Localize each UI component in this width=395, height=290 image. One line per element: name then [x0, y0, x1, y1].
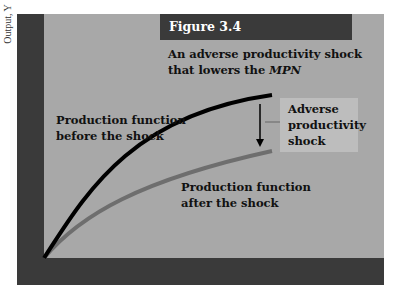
shock-line-1: Adverse [288, 101, 358, 117]
caption-line-2-text: that lowers the [168, 63, 269, 77]
caption-line-2: that lowers the MPN [168, 62, 368, 78]
label-after-line-1: Production function [181, 179, 341, 195]
caption-line-1: An adverse productivity shock [168, 46, 368, 62]
label-before-shock: Production function before the shock [56, 112, 206, 144]
shock-line-2: productivity [288, 117, 358, 133]
adverse-shock-label-box: Adverse productivity shock [280, 98, 358, 152]
caption-mpn: MPN [269, 63, 301, 77]
figure-caption: An adverse productivity shock that lower… [168, 46, 368, 78]
label-after-shock: Production function after the shock [181, 179, 341, 211]
down-arrow-icon [256, 104, 264, 147]
label-before-line-1: Production function [56, 112, 206, 128]
label-before-line-2: before the shock [56, 128, 206, 144]
figure-number-banner: Figure 3.4 [160, 14, 352, 40]
label-after-line-2: after the shock [181, 195, 341, 211]
shock-line-3: shock [288, 133, 358, 149]
